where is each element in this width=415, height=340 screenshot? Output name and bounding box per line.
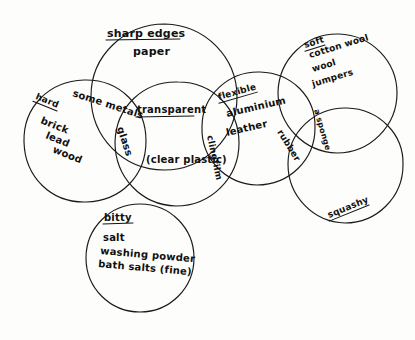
set-label-transparent: transparent [136, 104, 206, 117]
set-item-paper: paper [133, 45, 170, 58]
set-label-sharp-edges: sharp edges paper [106, 27, 186, 58]
set-item-aluminium: aluminium [225, 95, 287, 119]
set-label-bitty: bitty [103, 212, 133, 224]
intersection-label-rubber: rubber [275, 128, 302, 164]
set-label-hard: hard [33, 91, 61, 111]
intersection-label-glass: glass [115, 125, 135, 157]
venn-diagram-root: sharp edges paper hard brick lead wood t… [0, 0, 415, 340]
set-label-squashy: squashy [325, 194, 370, 221]
set-heading-bitty: bitty [104, 212, 132, 223]
set-item-wool: wool [311, 57, 337, 74]
set-heading-sharp-edges: sharp edges [107, 27, 186, 40]
venn-diagram-canvas: sharp edges paper hard brick lead wood t… [0, 0, 415, 340]
set-item-salt: salt [103, 232, 125, 243]
set-item-leather: leather [225, 118, 268, 138]
set-heading-transparent: transparent [137, 104, 206, 115]
